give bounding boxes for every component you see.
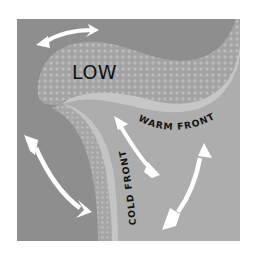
low-label: LOW — [72, 61, 117, 83]
weather-front-diagram: LOW WARM FRONT COLD FRONT — [0, 0, 257, 260]
